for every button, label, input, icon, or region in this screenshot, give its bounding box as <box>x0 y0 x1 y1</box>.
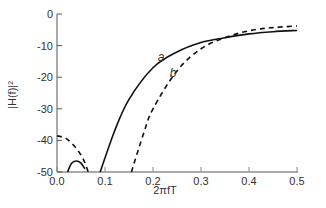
frequency-response-chart: 0-10-20-30-40-50 0.00.10.20.30.40.5 ab 2… <box>0 0 326 208</box>
curve-b <box>131 26 297 172</box>
x-tick-label: 0.5 <box>289 175 304 187</box>
x-axis-label: 2πfT <box>153 184 177 196</box>
y-tick-label: -40 <box>37 134 53 146</box>
series <box>57 26 297 172</box>
x-tick-label: 0.3 <box>193 175 208 187</box>
y-axis-label: |H(f)|² <box>6 81 18 109</box>
y-tick-label: -30 <box>37 103 53 115</box>
curve-label-b: b <box>170 66 177 80</box>
x-tick-label: 0.0 <box>49 175 64 187</box>
y-tick-label: 0 <box>47 8 53 20</box>
y-tick-label: -20 <box>37 71 53 83</box>
curve-a <box>68 161 85 172</box>
y-ticks: 0-10-20-30-40-50 <box>37 8 62 178</box>
x-tick-label: 0.4 <box>241 175 256 187</box>
curve-a <box>100 30 297 172</box>
y-tick-label: -10 <box>37 40 53 52</box>
x-tick-label: 0.1 <box>97 175 112 187</box>
curve-labels: ab <box>158 50 177 80</box>
curve-label-a: a <box>158 50 165 64</box>
axes <box>57 14 298 172</box>
